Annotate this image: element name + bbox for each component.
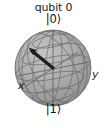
ket-one-label: |1⟩	[0, 103, 107, 116]
bloch-sphere-figure: qubit 0 |0⟩ |1⟩ x y	[0, 0, 107, 128]
x-axis-label: x	[18, 80, 25, 91]
y-axis-label: y	[92, 69, 99, 80]
ket-zero-label: |0⟩	[0, 13, 107, 26]
